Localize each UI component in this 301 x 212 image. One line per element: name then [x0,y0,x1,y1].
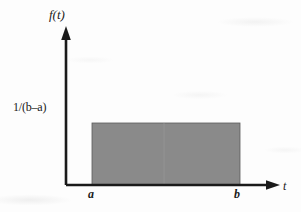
y-axis-arrowhead [61,26,71,40]
x-axis-arrowhead [266,180,280,190]
y-tick-label-height: 1/(b–a) [13,101,46,113]
uniform-pdf-rectangle [92,123,240,185]
uniform-distribution-figure: f(t) t a b 1/(b–a) [0,0,301,212]
y-axis-label: f(t) [49,8,65,21]
x-tick-label-b: b [234,188,240,200]
x-tick-label-a: a [88,188,94,200]
x-axis-label: t [283,180,286,192]
